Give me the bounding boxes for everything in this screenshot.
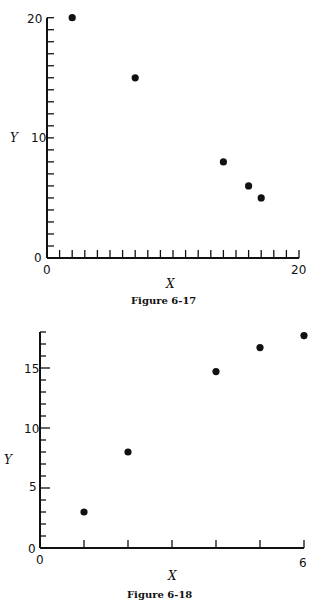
data-point xyxy=(256,344,263,351)
data-point xyxy=(132,74,139,81)
figure-caption: Figure 6-18 xyxy=(127,589,192,600)
axes xyxy=(40,332,304,548)
data-point xyxy=(69,14,76,21)
scatter-plot-figure-6-17: 20 10 0 0 20 Y X Figure 6-17 xyxy=(10,12,306,306)
x-axis-label: X xyxy=(167,569,177,583)
y-tick-label-0: 0 xyxy=(34,251,42,265)
x-tick-label-20: 20 xyxy=(291,263,306,277)
y-tick-label-0: 0 xyxy=(28,542,36,556)
data-point xyxy=(300,332,307,339)
data-points xyxy=(80,332,307,516)
y-tick-label-10: 10 xyxy=(31,131,46,145)
data-point xyxy=(212,368,219,375)
y-tick-label-15: 15 xyxy=(24,362,39,376)
figure-page: 20 10 0 0 20 Y X Figure 6-17 15 10 5 0 0… xyxy=(0,0,324,602)
x-axis-label: X xyxy=(165,277,175,291)
y-tick-label-20: 20 xyxy=(27,12,42,26)
y-axis-label: Y xyxy=(4,453,13,467)
x-tick-label-0: 0 xyxy=(43,263,51,277)
data-point xyxy=(220,158,227,165)
data-points xyxy=(69,14,265,201)
y-axis-label: Y xyxy=(10,131,19,145)
y-tick-label-10: 10 xyxy=(24,422,39,436)
data-point xyxy=(80,508,87,515)
figure-caption: Figure 6-17 xyxy=(131,295,196,306)
x-tick-label-6: 6 xyxy=(299,556,307,570)
axes xyxy=(47,18,299,258)
data-point xyxy=(245,182,252,189)
data-point xyxy=(258,194,265,201)
y-tick-label-5: 5 xyxy=(29,480,37,494)
data-point xyxy=(124,448,131,455)
x-tick-label-0: 0 xyxy=(36,553,44,567)
scatter-plot-figure-6-18: 15 10 5 0 0 6 Y X Figure 6-18 xyxy=(4,332,308,600)
